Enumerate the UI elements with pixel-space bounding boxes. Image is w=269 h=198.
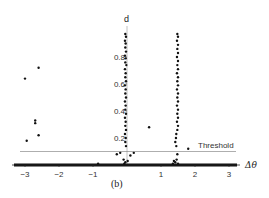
data-point bbox=[125, 129, 127, 131]
data-point bbox=[123, 162, 125, 164]
data-point bbox=[129, 154, 131, 156]
data-point bbox=[148, 126, 150, 128]
data-point bbox=[125, 36, 127, 38]
data-point bbox=[125, 96, 127, 98]
y-tick-label: 0.4 bbox=[114, 107, 126, 116]
data-point bbox=[177, 100, 179, 102]
data-point bbox=[124, 100, 126, 102]
data-point bbox=[174, 161, 176, 163]
x-axis-label: Δθ bbox=[244, 160, 257, 170]
data-point bbox=[125, 145, 127, 147]
data-point bbox=[176, 153, 178, 155]
data-point bbox=[177, 84, 179, 86]
data-point bbox=[119, 152, 121, 154]
data-point bbox=[133, 152, 135, 154]
data-point bbox=[176, 129, 178, 131]
data-point bbox=[124, 108, 126, 110]
data-point bbox=[176, 96, 178, 98]
data-point bbox=[26, 140, 28, 142]
data-point bbox=[122, 158, 124, 160]
data-point bbox=[124, 57, 126, 59]
data-point bbox=[116, 153, 118, 155]
data-point bbox=[172, 162, 174, 164]
x-tick-label: 3 bbox=[227, 170, 232, 179]
data-point bbox=[34, 119, 36, 121]
data-point bbox=[124, 117, 126, 119]
data-point bbox=[124, 61, 126, 63]
x-tick-label: 1 bbox=[159, 170, 164, 179]
data-point bbox=[176, 104, 178, 106]
x-tick-label: 2 bbox=[193, 170, 198, 179]
data-point bbox=[97, 162, 99, 164]
scatter-chart: Threshold −3−2−1123 0.20.40.60.8 d Δθ (b… bbox=[0, 0, 269, 198]
data-point bbox=[177, 162, 179, 164]
data-point bbox=[176, 40, 178, 42]
data-point bbox=[124, 42, 126, 44]
data-point bbox=[177, 60, 179, 62]
data-point bbox=[124, 104, 126, 106]
data-point bbox=[177, 68, 179, 70]
data-point bbox=[125, 113, 127, 115]
data-point bbox=[124, 72, 126, 74]
data-point bbox=[176, 64, 178, 66]
data-point bbox=[124, 137, 126, 139]
x-tick-labels: −3−2−1123 bbox=[20, 165, 231, 179]
data-point bbox=[175, 145, 177, 147]
data-point bbox=[176, 48, 178, 50]
data-point bbox=[187, 148, 189, 150]
data-point bbox=[24, 77, 26, 79]
data-point bbox=[177, 125, 179, 127]
y-tick-label: 0.8 bbox=[114, 53, 126, 62]
data-point bbox=[124, 33, 126, 35]
data-point bbox=[177, 92, 179, 94]
data-point bbox=[175, 137, 177, 139]
data-point bbox=[124, 121, 126, 123]
data-point bbox=[124, 141, 126, 143]
data-point bbox=[34, 122, 36, 124]
data-point bbox=[177, 76, 179, 78]
data-point bbox=[177, 108, 179, 110]
data-point bbox=[176, 88, 178, 90]
data-point bbox=[124, 76, 126, 78]
data-point bbox=[175, 133, 177, 135]
data-point bbox=[176, 80, 178, 82]
figure-caption: (b) bbox=[111, 178, 123, 190]
data-point bbox=[124, 133, 126, 135]
data-point bbox=[124, 68, 126, 70]
data-point bbox=[124, 84, 126, 86]
data-point bbox=[176, 56, 178, 58]
data-point bbox=[125, 64, 127, 66]
data-point bbox=[176, 113, 178, 115]
data-point bbox=[37, 67, 39, 69]
data-point bbox=[125, 50, 127, 52]
data-point bbox=[176, 33, 178, 35]
data-point bbox=[177, 36, 179, 38]
data-point bbox=[37, 134, 39, 136]
data-point bbox=[126, 160, 128, 162]
data-point bbox=[124, 46, 126, 48]
data-point bbox=[176, 121, 178, 123]
data-point bbox=[124, 92, 126, 94]
data-point bbox=[124, 40, 126, 42]
data-point bbox=[174, 141, 176, 143]
data-point bbox=[125, 80, 127, 82]
data-point bbox=[177, 117, 179, 119]
data-point bbox=[176, 72, 178, 74]
data-point bbox=[124, 88, 126, 90]
data-point bbox=[177, 52, 179, 54]
data-point bbox=[177, 44, 179, 46]
threshold-label: Threshold bbox=[198, 141, 234, 150]
y-tick-label: 0.6 bbox=[114, 80, 126, 89]
data-point bbox=[124, 125, 126, 127]
x-tick-label: −3 bbox=[20, 170, 30, 179]
x-tick-label: −1 bbox=[88, 170, 98, 179]
data-point bbox=[124, 54, 126, 56]
x-tick-label: −2 bbox=[54, 170, 64, 179]
data-point bbox=[175, 158, 177, 160]
data-points bbox=[24, 33, 190, 165]
y-axis-label: d bbox=[124, 14, 129, 24]
y-tick-label: 0.2 bbox=[114, 134, 126, 143]
